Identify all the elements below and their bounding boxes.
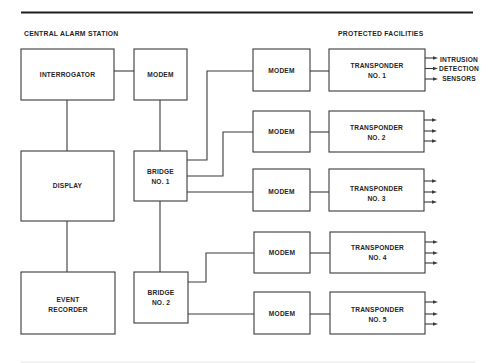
arrow-head-icon	[432, 190, 437, 194]
node-label-line-2: NO. 5	[368, 316, 386, 323]
node-label-line-1: TRANSPONDER	[350, 62, 403, 69]
sensor-output-arrow-t5-2	[425, 312, 438, 316]
node-box	[329, 111, 424, 152]
node-label-line-1: BRIDGE	[148, 289, 175, 296]
node-label-line-1: TRANSPONDER	[350, 124, 403, 131]
node-modem-3: MODEM	[253, 169, 310, 211]
node-label: MODEM	[268, 67, 295, 74]
arrow-head-icon	[432, 118, 437, 122]
node-box	[330, 292, 425, 334]
edge-bridge-2-modem-4	[188, 253, 254, 282]
arrow-head-icon	[433, 312, 438, 316]
sensor-output-arrow-t2-3	[424, 139, 437, 143]
arrow-head-icon	[433, 56, 438, 60]
arrow-head-icon	[432, 179, 437, 183]
node-transponder-5: TRANSPONDER NO. 5	[330, 292, 425, 334]
node-event-recorder: EVENT RECORDER	[21, 272, 115, 334]
node-modem-2: MODEM	[253, 111, 310, 152]
node-transponder-2: TRANSPONDER NO. 2	[329, 111, 424, 152]
sensor-output-arrow-t4-2	[425, 251, 438, 255]
arrow-head-icon	[433, 322, 438, 326]
node-label: INTERROGATOR	[40, 71, 95, 78]
node-label-line-2: NO. 2	[152, 299, 170, 306]
node-label-line-1: TRANSPONDER	[350, 185, 403, 192]
sensor-output-arrow-t2-1	[424, 118, 437, 122]
node-interrogator: INTERROGATOR	[21, 49, 114, 100]
arrow-head-icon	[432, 129, 437, 133]
section-header-protected-facilities: PROTECTED FACILITIES	[338, 30, 424, 37]
arrow-head-icon	[433, 240, 438, 244]
sensor-output-arrow-t1-2	[425, 67, 438, 71]
sensor-output-arrow-t3-3	[424, 200, 437, 204]
node-modem-1: MODEM	[253, 49, 310, 91]
node-box	[134, 151, 187, 201]
sensor-output-arrow-t5-1	[425, 300, 438, 304]
node-label-line-2: NO. 1	[368, 72, 386, 79]
node-label: MODEM	[147, 71, 174, 78]
section-header-central-alarm-station: CENTRAL ALARM STATION	[24, 30, 118, 37]
sensor-label-line-1: INTRUSION	[440, 56, 478, 63]
node-transponder-1: TRANSPONDER NO. 1	[329, 49, 425, 91]
sensor-output-arrow-t1-3	[425, 77, 438, 81]
node-label: DISPLAY	[53, 182, 83, 189]
sensor-output-arrow-t3-2	[424, 190, 437, 194]
arrow-head-icon	[433, 251, 438, 255]
node-label-line-1: TRANSPONDER	[351, 244, 404, 251]
edge-bridge-1-modem-2	[187, 132, 253, 176]
sensor-output-arrows	[424, 56, 438, 326]
node-transponder-3: TRANSPONDER NO. 3	[329, 169, 424, 211]
sensor-label-line-2: DETECTION	[439, 65, 479, 72]
node-transponder-4: TRANSPONDER NO. 4	[330, 232, 425, 273]
sensor-output-arrow-t2-2	[424, 129, 437, 133]
arrow-head-icon	[433, 300, 438, 304]
node-box	[330, 232, 425, 273]
alarm-system-diagram: CENTRAL ALARM STATION PROTECTED FACILITI…	[0, 0, 495, 363]
arrow-head-icon	[433, 67, 438, 71]
node-bridge-1: BRIDGE NO. 1	[134, 151, 187, 201]
node-label: MODEM	[268, 128, 295, 135]
sensor-label-line-3: SENSORS	[442, 75, 476, 82]
node-box	[134, 272, 188, 323]
node-label-line-2: NO. 2	[367, 134, 385, 141]
node-label-line-2: RECORDER	[48, 306, 87, 313]
node-label-line-1: BRIDGE	[147, 168, 174, 175]
sensor-output-arrow-t3-1	[424, 179, 437, 183]
sensor-label: INTRUSION DETECTION SENSORS	[439, 56, 479, 82]
node-label-line-2: NO. 1	[151, 178, 169, 185]
node-label: MODEM	[269, 249, 296, 256]
node-central-modem: MODEM	[134, 49, 187, 100]
node-display: DISPLAY	[21, 151, 114, 221]
node-label-line-2: NO. 4	[368, 254, 386, 261]
node-modem-4: MODEM	[254, 232, 310, 273]
node-modem-5: MODEM	[254, 292, 310, 334]
node-label-line-1: TRANSPONDER	[351, 306, 404, 313]
sensor-output-arrow-t1-1	[425, 56, 438, 60]
node-label: MODEM	[268, 188, 295, 195]
node-bridge-2: BRIDGE NO. 2	[134, 272, 188, 323]
node-box	[21, 272, 115, 334]
arrow-head-icon	[433, 261, 438, 265]
node-box	[329, 49, 425, 91]
node-label-line-1: EVENT	[57, 296, 80, 303]
node-label: MODEM	[269, 310, 296, 317]
node-label-line-2: NO. 3	[367, 195, 385, 202]
sensor-output-arrow-t4-1	[425, 240, 438, 244]
arrow-head-icon	[433, 77, 438, 81]
edge-bridge-1-modem-1	[187, 71, 253, 160]
arrow-head-icon	[432, 139, 437, 143]
sensor-output-arrow-t4-3	[425, 261, 438, 265]
sensor-output-arrow-t5-3	[425, 322, 438, 326]
arrow-head-icon	[432, 200, 437, 204]
